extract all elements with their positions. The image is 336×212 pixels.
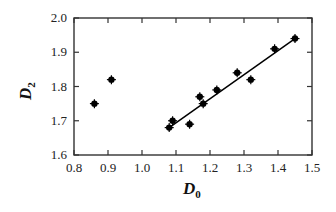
data-point [200, 100, 206, 106]
data-point [214, 87, 220, 93]
data-point [248, 76, 254, 82]
data-point [186, 121, 192, 127]
x-tick-label: 1.5 [304, 160, 320, 175]
data-point [271, 46, 277, 52]
x-tick-label: 1.1 [168, 160, 184, 175]
data-point [234, 70, 240, 76]
data-point [166, 124, 172, 130]
data-point [108, 76, 114, 82]
y-tick-label: 1.9 [51, 44, 67, 59]
y-tick-label: 1.8 [51, 79, 67, 94]
data-point [169, 118, 175, 124]
data-point [91, 100, 97, 106]
fit-line [169, 39, 295, 128]
scatter-chart: 0.80.91.01.11.21.31.41.51.61.71.81.92.0 … [0, 0, 336, 212]
y-tick-label: 1.6 [51, 147, 68, 162]
y-axis-label: D2 [16, 82, 37, 101]
axes-frame [74, 18, 312, 155]
x-tick-label: 1.2 [202, 160, 218, 175]
data-point [197, 94, 203, 100]
y-tick-label: 2.0 [51, 10, 67, 25]
x-tick-label: 1.0 [134, 160, 150, 175]
x-tick-label: 0.8 [66, 160, 82, 175]
x-tick-label: 1.3 [236, 160, 252, 175]
y-tick-label: 1.7 [51, 113, 68, 128]
data-point [292, 35, 298, 41]
plot-area: 0.80.91.01.11.21.31.41.51.61.71.81.92.0 [51, 10, 320, 175]
x-tick-label: 0.9 [100, 160, 116, 175]
x-axis-label: D0 [182, 179, 201, 200]
x-tick-label: 1.4 [270, 160, 287, 175]
